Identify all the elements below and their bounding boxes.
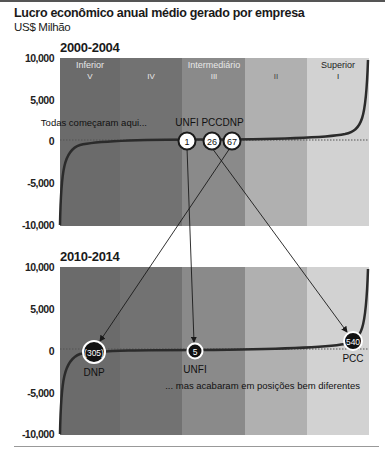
marker-label-dnp-bottom: DNP [83,367,104,378]
marker-label-unfi-top: UNFI [175,117,198,128]
band-quintile-v: V [87,72,93,81]
svg-text:26: 26 [207,137,217,147]
marker-label-pcc-top: PCC [201,117,222,128]
band-quintile-ii: II [274,72,278,81]
svg-text:67: 67 [227,137,237,147]
bottom-rule [14,446,379,447]
marker-dnp-bottom: (305) DNP [83,341,105,378]
band-group-inferior: Inferior [76,60,104,70]
marker-pcc-top: 26 [204,133,221,150]
band-quintile-i: I [337,72,339,81]
band-group-superior: Superior [321,60,355,70]
svg-text:540: 540 [346,337,360,347]
marker-label-unfi-bottom: UNFI [183,364,206,375]
annotation-start: Todas começaram aqui... [41,117,147,128]
marker-unfi-top: 1 [179,133,196,150]
svg-text:5: 5 [193,347,198,357]
annotation-end: ... mas acabaram em posições bem diferen… [165,380,360,391]
chart-canvas: Inferior V IV Intermediário III II Super… [0,0,392,458]
band-quintile-iv: IV [147,72,155,81]
svg-text:1: 1 [184,137,189,147]
marker-dnp-top: 67 [224,133,241,150]
marker-label-dnp-top: DNP [222,117,243,128]
band-group-intermediario: Intermediário [188,60,241,70]
marker-label-pcc-bottom: PCC [342,353,363,364]
band-quintile-iii: III [211,72,218,81]
svg-text:(305): (305) [84,348,104,358]
